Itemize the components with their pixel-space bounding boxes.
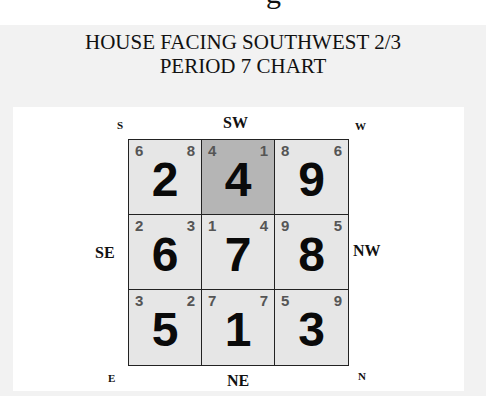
base-star: 1 (202, 302, 274, 358)
direction-label-e: E (108, 373, 115, 384)
grid-cell-center: 147 (202, 215, 275, 290)
base-star: 9 (275, 152, 348, 208)
direction-label-s: S (117, 120, 123, 131)
direction-label-sw: SW (223, 115, 248, 131)
grid-cell-sw: 414 (202, 140, 275, 215)
base-star: 5 (129, 302, 201, 358)
flying-star-grid: 682414869236147958325771593 (128, 139, 349, 366)
base-star: 8 (275, 227, 348, 283)
direction-label-w: W (355, 121, 366, 132)
grid-cell-ne: 771 (202, 290, 275, 365)
grid-cell-se: 236 (129, 215, 202, 290)
base-star: 3 (275, 302, 348, 358)
chart-title-line2: PERIOD 7 CHART (0, 54, 486, 78)
grid-cell-s: 682 (129, 140, 202, 215)
direction-label-n: N (358, 371, 366, 382)
base-star: 4 (202, 152, 274, 208)
direction-label-nw: NW (353, 243, 381, 259)
grid-cell-n: 593 (275, 290, 348, 365)
direction-label-ne: NE (227, 373, 249, 389)
grid-cell-nw: 958 (275, 215, 348, 290)
cutoff-heading-fragment: g (266, 0, 281, 8)
chart-title: HOUSE FACING SOUTHWEST 2/3 PERIOD 7 CHAR… (0, 30, 486, 78)
grid-cell-e: 325 (129, 290, 202, 365)
base-star: 7 (202, 227, 274, 283)
base-star: 2 (129, 152, 201, 208)
chart-title-line1: HOUSE FACING SOUTHWEST 2/3 (0, 30, 486, 54)
direction-label-se: SE (95, 245, 115, 261)
base-star: 6 (129, 227, 201, 283)
grid-cell-w: 869 (275, 140, 348, 215)
